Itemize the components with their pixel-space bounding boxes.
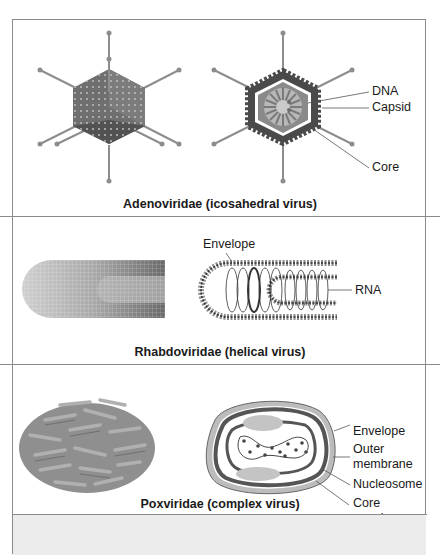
label-rna: RNA xyxy=(355,283,381,298)
label-core: Core xyxy=(372,160,399,175)
footer-band xyxy=(13,515,426,555)
poxvirus-exterior xyxy=(19,400,155,493)
panel-divider xyxy=(0,364,440,365)
label-capsid: Capsid xyxy=(372,100,411,115)
caption-adenoviridae: Adenoviridae (icosahedral virus) xyxy=(0,197,440,211)
label-envelope: Envelope xyxy=(203,237,255,252)
label-pox-envelope: Envelope xyxy=(353,424,405,439)
rhabdovirus-cross-section xyxy=(201,253,352,317)
caption-rhabdoviridae: Rhabdoviridae (helical virus) xyxy=(0,345,440,359)
label-outer-membrane: Outer membrane xyxy=(353,442,413,472)
label-outer-membrane-line2: membrane xyxy=(353,457,413,472)
poxvirus-cross-section xyxy=(206,401,350,505)
label-nucleosome: Nucleosome xyxy=(353,477,422,492)
label-outer-membrane-line1: Outer xyxy=(353,442,413,457)
rhabdovirus-exterior xyxy=(22,260,165,318)
caption-poxviridae: Poxviridae (complex virus) xyxy=(0,497,440,511)
label-dna: DNA xyxy=(372,84,398,99)
adenovirus-cross-section xyxy=(212,31,370,184)
panel-divider xyxy=(0,216,440,217)
